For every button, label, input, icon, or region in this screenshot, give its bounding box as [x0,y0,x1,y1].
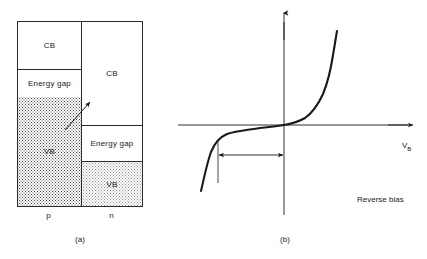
p-side-label: p [17,211,80,220]
figure-b-iv-characteristic: I V Forward bias Reverse bias VB (b) [160,0,427,259]
breakdown-voltage-subscript: B [407,146,411,152]
n-side-label: n [80,211,143,220]
band-diagram-box: CB Energy gap VB CB Energy gap VB [17,21,143,207]
electron-transition-arrow-icon [18,22,144,208]
figure-a-caption: (a) [17,235,143,244]
reverse-bias-label: Reverse bias [357,195,404,204]
figure-b-caption: (b) [255,235,315,244]
diode-curve [201,31,337,191]
iv-curve-plot [160,0,427,259]
breakdown-voltage-label: VB [402,141,411,152]
